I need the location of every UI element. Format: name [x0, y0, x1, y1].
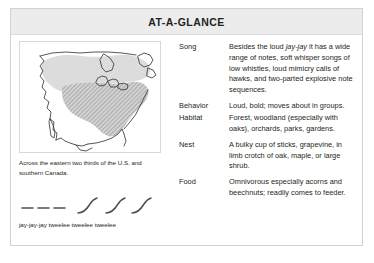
- song-sonogram-svg: [19, 192, 165, 218]
- fact-value-song: Besides the loud jay-jay it has a wide r…: [229, 42, 356, 101]
- fact-row-behavior: Behavior Loud, bold; moves about in grou…: [179, 101, 356, 113]
- fact-value-song-part-1: Besides the loud: [229, 42, 286, 51]
- fact-row-habitat: Habitat Forest, woodland (especially wit…: [179, 113, 356, 140]
- card-body: Across the eastern two thirds of the U.S…: [11, 35, 362, 246]
- screenshot-root: AT-A-GLANCE: [0, 0, 374, 263]
- page-title: AT-A-GLANCE: [148, 16, 225, 28]
- card-header: AT-A-GLANCE: [11, 9, 362, 35]
- fact-row-nest: Nest A bulky cup of sticks, grapevine, i…: [179, 140, 356, 177]
- sonogram-sweep-2: [106, 198, 125, 213]
- fact-label-nest: Nest: [179, 140, 229, 177]
- fact-label-habitat: Habitat: [179, 113, 229, 140]
- range-map-north-america: [19, 41, 161, 153]
- map-caption: Across the eastern two thirds of the U.S…: [19, 158, 165, 177]
- sonogram-caption: jay-jay-jay tweelee tweelee tweelee: [19, 220, 167, 229]
- fact-value-behavior: Loud, bold; moves about in groups.: [229, 101, 356, 113]
- fact-row-song: Song Besides the loud jay-jay it has a w…: [179, 42, 356, 101]
- fact-label-behavior: Behavior: [179, 101, 229, 113]
- sonogram-sweep-3: [132, 198, 151, 213]
- left-column: Across the eastern two thirds of the U.S…: [17, 41, 167, 246]
- range-map-svg: [20, 42, 160, 152]
- fact-value-song-italic: jay-jay: [286, 42, 307, 51]
- fact-label-song: Song: [179, 42, 229, 101]
- song-sonogram: [19, 192, 165, 218]
- facts-table: Song Besides the loud jay-jay it has a w…: [179, 42, 356, 204]
- fact-label-food: Food: [179, 177, 229, 204]
- sonogram-sweep-1: [78, 198, 97, 213]
- fact-value-habitat: Forest, woodland (especially with oaks),…: [229, 113, 356, 140]
- fact-value-food: Omnivorous especially acorns and beechnu…: [229, 177, 356, 204]
- right-column: Song Besides the loud jay-jay it has a w…: [167, 41, 356, 246]
- at-a-glance-card: AT-A-GLANCE: [10, 8, 363, 246]
- fact-row-food: Food Omnivorous especially acorns and be…: [179, 177, 356, 204]
- fact-value-nest: A bulky cup of sticks, grapevine, in lim…: [229, 140, 356, 177]
